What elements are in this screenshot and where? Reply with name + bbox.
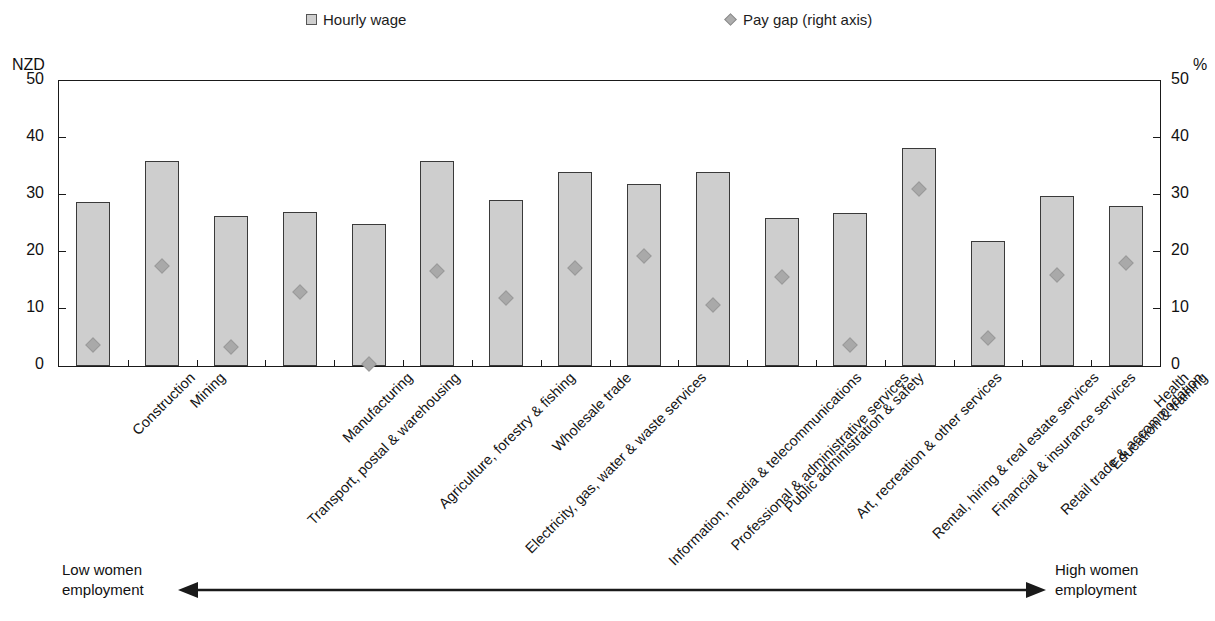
y-axis-tick-label: 40 xyxy=(4,128,44,144)
employment-gradient-annotation: Low women employment High women employme… xyxy=(0,558,1215,618)
bar-hourly-wage xyxy=(627,184,661,366)
chart-legend: Hourly wage Pay gap (right axis) xyxy=(0,8,1215,38)
y2-axis-tick-label: 30 xyxy=(1171,185,1211,201)
y2-axis-tick-label: 10 xyxy=(1171,299,1211,315)
annotation-high-women-employment: High women employment xyxy=(1055,560,1138,601)
bar-group xyxy=(59,81,128,366)
y2-axis-tick xyxy=(1153,308,1160,309)
x-axis-tick xyxy=(747,360,748,366)
x-axis-category-label: Construction xyxy=(130,370,199,439)
bar-hourly-wage xyxy=(971,241,1005,366)
annotation-high-line2: employment xyxy=(1055,580,1138,600)
x-axis-tick xyxy=(1091,360,1092,366)
bar-group xyxy=(816,81,885,366)
bar-hourly-wage xyxy=(352,224,386,367)
bar-group xyxy=(472,81,541,366)
diamond-icon xyxy=(724,13,737,26)
bar-group xyxy=(128,81,197,366)
y-axis-tick xyxy=(59,137,66,138)
bar-group xyxy=(334,81,403,366)
y-axis-tick xyxy=(59,194,66,195)
bar-group xyxy=(954,81,1023,366)
annotation-low-line2: employment xyxy=(62,580,144,600)
legend-item-hourly-wage: Hourly wage xyxy=(306,11,406,28)
y2-axis-tick-label: 0 xyxy=(1171,356,1211,372)
annotation-low-women-employment: Low women employment xyxy=(62,560,144,601)
y-axis-tick xyxy=(59,251,66,252)
x-axis-tick xyxy=(472,360,473,366)
legend-label-hourly-wage: Hourly wage xyxy=(323,11,406,28)
y2-axis-tick-label: 50 xyxy=(1171,71,1211,87)
y2-axis-tick-label: 20 xyxy=(1171,242,1211,258)
x-axis-tick xyxy=(954,360,955,366)
x-axis-category-label: Rental, hiring & real estate services xyxy=(930,370,1103,543)
bar-hourly-wage xyxy=(1109,206,1143,366)
plot-area xyxy=(58,80,1161,367)
x-axis-tick xyxy=(816,360,817,366)
bar-group xyxy=(610,81,679,366)
y-axis-tick xyxy=(59,308,66,309)
bar-group xyxy=(403,81,472,366)
bar-group xyxy=(1091,81,1160,366)
bar-hourly-wage xyxy=(489,200,523,366)
annotation-low-line1: Low women xyxy=(62,560,144,580)
bar-group xyxy=(678,81,747,366)
bar-group xyxy=(541,81,610,366)
bar-group xyxy=(1022,81,1091,366)
x-axis-tick xyxy=(885,360,886,366)
y-axis-tick-label: 50 xyxy=(4,71,44,87)
bar-hourly-wage xyxy=(765,218,799,366)
bar-group xyxy=(885,81,954,366)
x-axis-tick xyxy=(334,360,335,366)
x-axis-tick xyxy=(541,360,542,366)
x-axis-tick xyxy=(403,360,404,366)
legend-label-pay-gap: Pay gap (right axis) xyxy=(743,11,872,28)
square-icon xyxy=(306,14,317,25)
legend-item-pay-gap: Pay gap (right axis) xyxy=(724,11,872,28)
x-axis-category-label: Financial & insurance services xyxy=(990,370,1140,520)
bar-group xyxy=(197,81,266,366)
x-axis-tick xyxy=(1022,360,1023,366)
bar-hourly-wage xyxy=(696,172,730,366)
y2-axis-tick xyxy=(1153,137,1160,138)
x-axis-category-label: Professional & administrative services xyxy=(728,370,912,554)
annotation-high-line1: High women xyxy=(1055,560,1138,580)
x-axis-tick xyxy=(265,360,266,366)
y-axis-tick-label: 20 xyxy=(4,242,44,258)
bars-layer xyxy=(59,81,1160,366)
y2-axis-tick-label: 40 xyxy=(1171,128,1211,144)
x-axis-tick xyxy=(678,360,679,366)
bar-group xyxy=(265,81,334,366)
double-headed-arrow-icon xyxy=(178,582,1046,598)
bar-group xyxy=(747,81,816,366)
y2-axis-tick xyxy=(1153,251,1160,252)
y-axis-tick-label: 10 xyxy=(4,299,44,315)
x-axis-tick xyxy=(610,360,611,366)
y-axis-tick-label: 0 xyxy=(4,356,44,372)
x-axis-tick xyxy=(197,360,198,366)
y-axis-tick-label: 30 xyxy=(4,185,44,201)
x-axis-tick xyxy=(128,360,129,366)
x-axis-category-labels: ConstructionMiningTransport, postal & wa… xyxy=(0,368,1215,558)
y2-axis-tick xyxy=(1153,194,1160,195)
